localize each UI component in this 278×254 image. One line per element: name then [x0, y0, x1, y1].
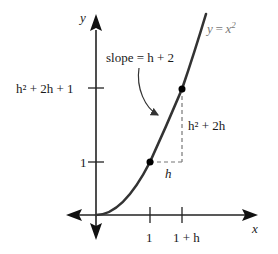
- x-tick-label-1-plus-h: 1 + h: [173, 230, 200, 245]
- point-1-plus-h: [179, 86, 186, 93]
- slope-pointer-arrow: [138, 68, 158, 115]
- rise-label: h² + 2h: [188, 118, 226, 133]
- x-axis-label: x: [251, 221, 258, 236]
- run-label: h: [165, 166, 172, 181]
- point-1: [147, 159, 154, 166]
- y-axis-label: y: [78, 10, 86, 25]
- x-tick-label-1: 1: [146, 230, 153, 245]
- diagram-canvas: y x 1 1 + h 1 h² + 2h + 1 slope = h + 2 …: [0, 0, 278, 254]
- diagram: y x 1 1 + h 1 h² + 2h + 1 slope = h + 2 …: [0, 0, 278, 254]
- curve-label: y=x2: [205, 20, 236, 36]
- y-axis: [90, 14, 102, 240]
- y-tick-label-top: h² + 2h + 1: [16, 81, 74, 96]
- axis-ticks: [88, 88, 182, 223]
- arrow-up-icon: [90, 14, 102, 31]
- parabola-curve: [96, 14, 206, 215]
- y-tick-label-1: 1: [80, 155, 87, 170]
- slope-label: slope = h + 2: [106, 50, 174, 65]
